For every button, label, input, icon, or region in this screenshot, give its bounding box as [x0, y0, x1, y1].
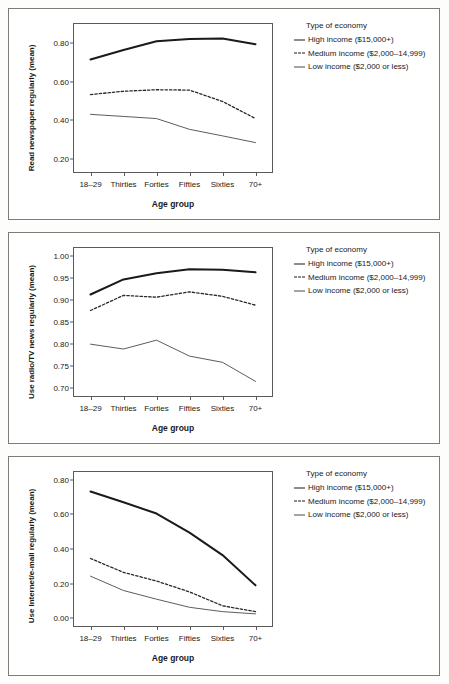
- x-axis-title: Age group: [73, 199, 273, 209]
- multi-panel-line-chart-figure: Read newspaper regularly (mean) 0.200.40…: [0, 0, 449, 684]
- x-axis-tick-label: Thirties: [110, 634, 136, 643]
- x-axis-tick-label: 18–29: [79, 180, 101, 189]
- legend-item: Low income ($2,000 or less): [294, 61, 442, 72]
- x-axis-tick-mark: [124, 172, 125, 176]
- legend-item: Low income ($2,000 or less): [294, 285, 442, 296]
- x-axis-tick-mark: [256, 626, 257, 630]
- series-line: [91, 269, 256, 294]
- x-axis-tick-mark: [256, 396, 257, 400]
- y-axis-tick-label: 0.00: [53, 614, 69, 623]
- x-axis-tick-label: Sixties: [211, 404, 235, 413]
- series-line: [91, 39, 256, 60]
- y-axis-tick-label: 0.70: [53, 384, 69, 393]
- legend-item-label: Medium income ($2,000–14,999): [308, 49, 425, 58]
- legend-item-label: Low income ($2,000 or less): [308, 62, 409, 71]
- series-line: [91, 292, 256, 311]
- x-axis-tick-label: 70+: [249, 634, 263, 643]
- x-axis-tick-mark: [91, 396, 92, 400]
- legend-item-label: Medium income ($2,000–14,999): [308, 497, 425, 506]
- legend-item: Medium income ($2,000–14,999): [294, 272, 442, 283]
- x-axis-tick-label: 18–29: [79, 634, 101, 643]
- legend-item: Medium income ($2,000–14,999): [294, 48, 442, 59]
- series-line: [91, 114, 256, 142]
- y-axis-title: Read newspaper regularly (mean): [25, 23, 39, 193]
- series-lines: [74, 248, 272, 396]
- legend: Type of economy High income ($15,000+)Me…: [294, 21, 442, 75]
- y-axis-tick-label: 0.20: [53, 154, 69, 163]
- legend: Type of economy High income ($15,000+)Me…: [294, 469, 442, 523]
- x-axis-tick-label: 18–29: [79, 404, 101, 413]
- legend-line-swatch-icon: [294, 48, 305, 58]
- plot-area: 0.200.400.600.8018–29ThirtiesFortiesFift…: [73, 23, 273, 173]
- chart-panel-newspaper: Read newspaper regularly (mean) 0.200.40…: [8, 8, 440, 220]
- x-axis-tick-mark: [124, 396, 125, 400]
- y-axis-tick-label: 0.95: [53, 273, 69, 282]
- legend-item: High income ($15,000+): [294, 34, 442, 45]
- legend-title: Type of economy: [306, 469, 442, 478]
- legend-item: Medium income ($2,000–14,999): [294, 496, 442, 507]
- legend: Type of economy High income ($15,000+)Me…: [294, 245, 442, 299]
- legend-item-label: High income ($15,000+): [308, 483, 394, 492]
- series-line: [91, 492, 256, 586]
- y-axis-tick-label: 0.80: [53, 475, 69, 484]
- x-axis-title: Age group: [73, 653, 273, 663]
- series-line: [91, 340, 256, 381]
- y-axis-tick-label: 0.75: [53, 362, 69, 371]
- x-axis-tick-mark: [157, 396, 158, 400]
- x-axis-tick-label: 70+: [249, 180, 263, 189]
- x-axis-tick-label: Thirties: [110, 404, 136, 413]
- x-axis-tick-label: Sixties: [211, 634, 235, 643]
- legend-line-swatch-icon: [294, 259, 305, 269]
- chart-panel-internet-email: Use Internet/e-mail regularly (mean) 0.0…: [8, 456, 440, 676]
- y-axis-tick-label: 1.00: [53, 251, 69, 260]
- legend-line-swatch-icon: [294, 496, 305, 506]
- legend-item: Low income ($2,000 or less): [294, 509, 442, 520]
- legend-line-swatch-icon: [294, 62, 305, 72]
- legend-item-label: Medium income ($2,000–14,999): [308, 273, 425, 282]
- y-axis-tick-label: 0.20: [53, 579, 69, 588]
- legend-title: Type of economy: [306, 21, 442, 30]
- x-axis-tick-mark: [190, 396, 191, 400]
- y-axis-tick-label: 0.90: [53, 295, 69, 304]
- x-axis-tick-mark: [190, 626, 191, 630]
- legend-item-label: High income ($15,000+): [308, 35, 394, 44]
- y-axis-tick-label: 0.85: [53, 318, 69, 327]
- x-axis-tick-label: Forties: [144, 404, 168, 413]
- legend-line-swatch-icon: [294, 286, 305, 296]
- x-axis-tick-label: Fifties: [179, 634, 200, 643]
- y-axis-tick-label: 0.80: [53, 39, 69, 48]
- x-axis-tick-mark: [256, 172, 257, 176]
- legend-line-swatch-icon: [294, 483, 305, 493]
- series-lines: [74, 472, 272, 626]
- chart-panel-radio-tv: Use radio/TV news regularly (mean) 0.700…: [8, 232, 440, 444]
- x-axis-tick-mark: [223, 626, 224, 630]
- legend-line-swatch-icon: [294, 35, 305, 45]
- x-axis-tick-label: Forties: [144, 634, 168, 643]
- y-axis-tick-label: 0.40: [53, 545, 69, 554]
- series-line: [91, 576, 256, 614]
- legend-title: Type of economy: [306, 245, 442, 254]
- x-axis-tick-label: Fifties: [179, 404, 200, 413]
- legend-line-swatch-icon: [294, 510, 305, 520]
- x-axis-tick-mark: [223, 396, 224, 400]
- series-line: [91, 90, 256, 119]
- x-axis-tick-mark: [190, 172, 191, 176]
- legend-item-label: Low income ($2,000 or less): [308, 510, 409, 519]
- legend-item-label: Low income ($2,000 or less): [308, 286, 409, 295]
- x-axis-tick-label: Fifties: [179, 180, 200, 189]
- y-axis-tick-label: 0.40: [53, 116, 69, 125]
- x-axis-tick-mark: [157, 626, 158, 630]
- x-axis-tick-label: Forties: [144, 180, 168, 189]
- legend-line-swatch-icon: [294, 272, 305, 282]
- legend-item-label: High income ($15,000+): [308, 259, 394, 268]
- legend-item: High income ($15,000+): [294, 482, 442, 493]
- x-axis-tick-mark: [223, 172, 224, 176]
- x-axis-tick-mark: [124, 626, 125, 630]
- plot-area: 0.700.750.800.850.900.951.0018–29Thirtie…: [73, 247, 273, 397]
- x-axis-tick-label: 70+: [249, 404, 263, 413]
- x-axis-tick-mark: [91, 626, 92, 630]
- y-axis-title: Use Internet/e-mail regularly (mean): [25, 471, 39, 641]
- y-axis-tick-label: 0.60: [53, 510, 69, 519]
- y-axis-tick-label: 0.60: [53, 77, 69, 86]
- x-axis-tick-label: Thirties: [110, 180, 136, 189]
